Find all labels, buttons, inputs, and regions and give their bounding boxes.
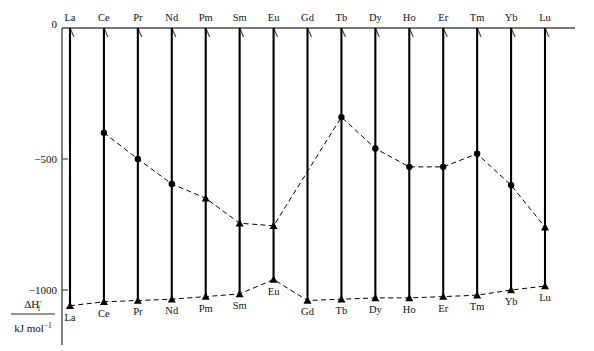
data-point-1-sm [236,290,244,297]
x-axis-label-bottom-tm: Tm [470,301,485,312]
x-axis-label-top-pm: Pm [199,12,213,23]
data-point-1-er [439,293,447,300]
chart-canvas: 0−500−1000LaCePrNdPmSmEuGdTbDyHoErTmYbLu… [0,0,594,351]
data-point-1-gd [304,296,312,303]
x-axis-label-top-ho: Ho [403,12,416,23]
x-axis-label-top-tm: Tm [470,12,485,23]
x-axis-label-bottom-pr: Pr [133,306,143,317]
y-axis-title-numerator: ΔH◦f [24,297,42,313]
x-axis-label-top-dy: Dy [369,12,383,23]
x-axis-label-top-tb: Tb [336,12,348,23]
data-point-0-nd [169,181,175,187]
x-axis-label-bottom-eu: Eu [268,286,280,297]
data-point-0-er [440,164,446,170]
data-point-0-dy [372,145,378,151]
dashed-series-0 [104,117,545,227]
x-axis-label-top-pr: Pr [133,12,143,23]
x-axis-label-bottom-dy: Dy [369,304,383,315]
data-point-0-ce [101,130,107,136]
x-axis-label-top-lu: Lu [539,12,551,23]
x-axis-label-top-sm: Sm [233,12,247,23]
data-point-0-lu [541,223,549,230]
data-point-0-pr [135,156,141,162]
x-axis-label-bottom-ho: Ho [403,304,416,315]
x-axis-label-bottom-lu: Lu [539,292,551,303]
data-point-0-yb [508,182,514,188]
y-tick-label: −1000 [29,284,58,296]
x-axis-label-bottom-gd: Gd [301,306,315,317]
x-axis-label-bottom-la: La [64,312,75,323]
x-axis-label-bottom-tb: Tb [336,305,348,316]
x-axis-label-top-eu: Eu [268,12,280,23]
data-point-0-tm [474,151,480,157]
data-point-1-lu [541,282,549,289]
x-axis-label-bottom-nd: Nd [165,305,179,316]
data-point-1-eu [270,276,278,283]
x-axis-label-top-ce: Ce [98,12,110,23]
data-point-0-pm [202,194,210,201]
lanthanide-enthalpy-chart: 0−500−1000LaCePrNdPmSmEuGdTbDyHoErTmYbLu… [0,0,594,351]
x-axis-label-bottom-pm: Pm [199,303,213,314]
x-axis-label-top-er: Er [438,12,448,23]
data-point-1-dy [371,294,379,301]
x-axis-label-bottom-sm: Sm [233,300,247,311]
x-axis-label-top-la: La [64,12,75,23]
x-axis-label-bottom-ce: Ce [98,308,110,319]
data-point-0-sm [236,219,244,226]
x-axis-label-bottom-er: Er [438,303,448,314]
data-point-0-tb [338,114,344,120]
x-axis-label-top-yb: Yb [505,12,518,23]
y-tick-label: 0 [52,18,58,30]
x-axis-label-top-nd: Nd [165,12,179,23]
y-axis-title-denominator: kJ mol−1 [14,321,52,334]
x-axis-label-top-gd: Gd [301,12,315,23]
data-point-0-ho [406,164,412,170]
y-tick-label: −500 [34,153,57,165]
x-axis-label-bottom-yb: Yb [505,296,518,307]
